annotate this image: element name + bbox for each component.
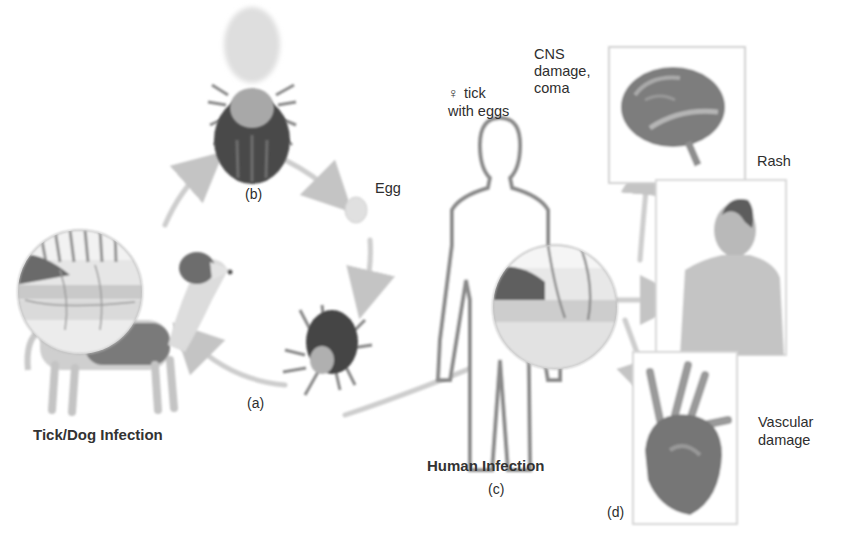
tick-dog-infection-label: Tick/Dog Infection [33, 426, 163, 443]
cns-label-line1: CNS [534, 46, 565, 63]
tick-infection-diagram: ♀ tick with eggs (b) Egg (a) Tick/Dog In… [0, 0, 846, 550]
female-tick-label: tick [464, 85, 486, 102]
egg-illustration [345, 197, 367, 223]
diagram-artwork [0, 0, 846, 550]
cns-label-line3: coma [534, 80, 569, 97]
clipped-caption [10, 541, 430, 550]
vascular-label-line1: Vascular [758, 414, 813, 431]
rash-label: Rash [757, 153, 791, 170]
brain-panel [609, 47, 745, 183]
panel-label-b: (b) [245, 186, 262, 203]
vascular-label-line2: damage [758, 432, 810, 449]
female-symbol: ♀ [448, 85, 459, 102]
rash-panel [656, 180, 786, 355]
panel-label-c: (c) [488, 481, 504, 498]
female-tick-illustration [208, 7, 296, 184]
egg-label: Egg [375, 180, 401, 197]
heart-panel [633, 352, 737, 524]
panel-label-d: (d) [607, 504, 624, 521]
cns-label-line2: damage, [534, 63, 590, 80]
panel-label-a: (a) [247, 395, 264, 412]
female-tick-label-line2: with eggs [448, 103, 509, 120]
nymph-tick-illustration [283, 305, 372, 395]
human-infection-label: Human Infection [427, 457, 545, 474]
